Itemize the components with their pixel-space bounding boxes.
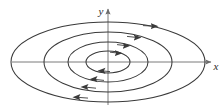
flow-arrow-bottom-second-icon <box>93 79 104 80</box>
phase-portrait-figure: y x <box>0 0 224 111</box>
flow-arrow-top-outermost-icon <box>143 26 155 27</box>
flow-arrow-bottom-outermost-icon <box>76 97 88 98</box>
y-axis-label: y <box>98 5 104 17</box>
x-axis-label: x <box>213 60 219 72</box>
axes-group <box>12 9 211 105</box>
phase-portrait-canvas: y x <box>0 0 224 111</box>
flow-arrow-top-second-icon <box>117 45 127 46</box>
flow-arrow-bottom-innermost-icon <box>101 71 110 72</box>
flow-arrow-top-third-icon <box>127 36 138 37</box>
flow-arrow-bottom-third-icon <box>84 87 96 88</box>
